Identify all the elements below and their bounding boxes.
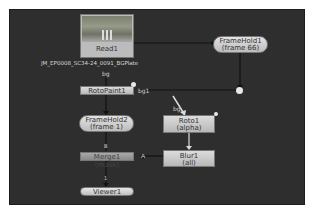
framehold2-param: (frame 1) [80, 124, 133, 131]
pipe-label-bg1: bg1 [138, 87, 149, 94]
pipe-label-a: A [141, 152, 145, 159]
node-framehold1[interactable]: FrameHold1 (frame 66) [213, 36, 268, 53]
merge1-label: Merge1 (mask) [94, 153, 120, 169]
node-rotopaint1[interactable]: RotoPaint1 [80, 86, 134, 95]
node-framehold2[interactable]: FrameHold2 (frame 1) [79, 115, 134, 132]
pipe-label-bg: bg [102, 70, 110, 77]
roto1-param: (alpha) [164, 125, 214, 132]
roto1-mask-input[interactable] [214, 112, 218, 116]
viewer1-label: Viewer1 [93, 188, 121, 196]
blur1-param: (all) [164, 160, 214, 167]
node-roto1[interactable]: Roto1 (alpha) [163, 115, 215, 133]
rotopaint1-label: RotoPaint1 [88, 87, 126, 95]
node-read1[interactable]: Read1 [80, 14, 134, 58]
read1-thumbnail [82, 16, 132, 42]
node-blur1[interactable]: Blur1 (all) [163, 150, 215, 167]
pipe-label-viewer: 1 [104, 175, 107, 181]
framehold1-param: (frame 66) [214, 45, 267, 52]
pipe-label-roto-bg: bg [173, 105, 181, 112]
read1-label: Read1 [81, 46, 133, 53]
node-viewer1[interactable]: Viewer1 [80, 187, 134, 196]
node-merge1[interactable]: Merge1 (mask) [80, 152, 134, 161]
pipe-label-b: B [104, 143, 107, 149]
rotopaint-mask-input[interactable] [131, 82, 136, 87]
dot-node[interactable] [236, 87, 243, 94]
read1-filename: JM_EP0008_SC34-24_0091_BGPlate [41, 60, 138, 66]
